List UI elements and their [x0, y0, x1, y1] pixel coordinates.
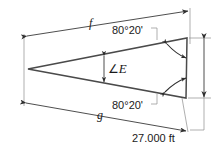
label-side-f: f	[89, 17, 92, 29]
dimension-line-base	[190, 39, 204, 130]
angle-symbol-icon: ∠	[108, 62, 119, 76]
dimension-line-g	[26, 103, 186, 131]
dim-arrow-f	[27, 11, 188, 36]
label-angle-top: 80°20'	[112, 25, 143, 36]
label-apex-angle-name: E	[119, 61, 127, 76]
label-angle-bottom: 80°20'	[112, 100, 143, 111]
angle-arc-top	[167, 44, 186, 58]
angle-arc-arrows	[165, 44, 186, 92]
leader-angle-top	[151, 28, 157, 40]
leader-base-label	[190, 97, 204, 130]
witness-bottom-right	[182, 98, 188, 132]
leader-angle-bottom-path	[151, 94, 157, 104]
dimension-line-f	[27, 11, 188, 36]
label-side-g: g	[97, 109, 103, 121]
triangle-diagram: f g 80°20' 80°20' ∠E 27.000 ft	[0, 0, 223, 154]
label-base-dimension: 27.000 ft	[132, 133, 175, 144]
leader-angle-top-path	[151, 28, 157, 40]
dim-arrow-g	[26, 103, 186, 131]
angle-arc-bottom	[165, 78, 186, 92]
label-apex-angle: ∠E	[108, 62, 127, 75]
leader-angle-bottom	[151, 94, 157, 104]
